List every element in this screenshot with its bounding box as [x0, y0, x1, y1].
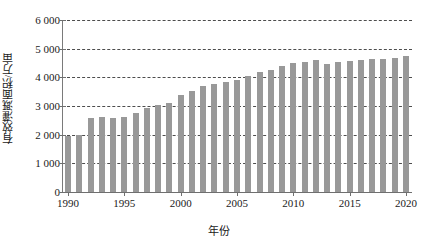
y-tick-label: 5 000 [16, 43, 60, 55]
x-tick-label: 2010 [282, 197, 304, 209]
y-tick-label: 3 000 [16, 100, 60, 112]
x-tick-label: 1995 [113, 197, 135, 209]
y-tick-label: 1 000 [16, 157, 60, 169]
x-axis-tick-labels: 1990199520002005201020152020 [62, 0, 412, 249]
y-tick-label: 2 000 [16, 129, 60, 141]
x-tick-label: 2020 [395, 197, 417, 209]
y-axis-tick-labels: 01 0002 0003 0004 0005 0006 000 [14, 0, 60, 249]
chart-figure: 有效灌溉面积/万亩 01 0002 0003 0004 0005 0006 00… [0, 0, 438, 249]
x-axis-title: 年份 [0, 222, 438, 238]
x-tick-label: 2000 [170, 197, 192, 209]
y-tick-label: 4 000 [16, 71, 60, 83]
x-tick-label: 2005 [226, 197, 248, 209]
x-tick-label: 2015 [339, 197, 361, 209]
y-tick-label: 6 000 [16, 14, 60, 26]
y-tick-label: 0 [16, 186, 60, 198]
x-tick-label: 1990 [57, 197, 79, 209]
